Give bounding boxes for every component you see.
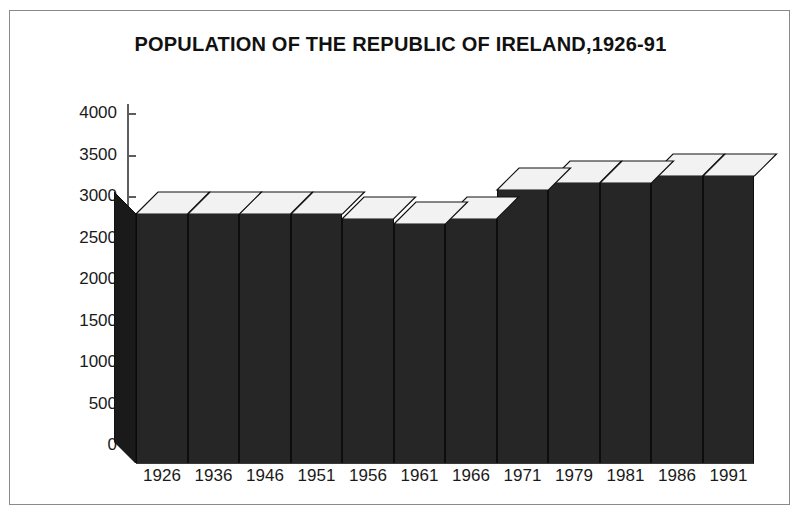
x-tick-label-1926: 1926 <box>134 466 190 486</box>
x-tick-label-1951: 1951 <box>289 466 345 486</box>
bar-1951[interactable] <box>291 192 343 463</box>
bar-1946[interactable] <box>239 192 291 463</box>
x-tick-label-1966: 1966 <box>443 466 499 486</box>
bar-1956[interactable] <box>342 197 394 463</box>
bar-front-face <box>600 183 652 463</box>
bar-top-face <box>136 192 188 214</box>
x-tick-label-1946: 1946 <box>237 466 293 486</box>
bar-front-face <box>445 219 497 463</box>
bar-1961[interactable] <box>394 202 446 463</box>
bar-front-face <box>651 176 703 463</box>
x-tick-label-1961: 1961 <box>392 466 448 486</box>
bar-1926[interactable] <box>136 192 188 463</box>
x-tick-label-1979: 1979 <box>546 466 602 486</box>
bar-left-side-face <box>114 192 138 463</box>
bar-front-face <box>291 214 343 463</box>
bar-1991[interactable] <box>703 154 755 463</box>
bar-front-face <box>548 183 600 463</box>
bar-front-face <box>497 190 549 463</box>
bar-front-face <box>239 214 291 463</box>
bar-front-face <box>342 219 394 463</box>
x-tick-label-1936: 1936 <box>186 466 242 486</box>
x-tick-label-1956: 1956 <box>340 466 396 486</box>
bar-1966[interactable] <box>445 197 497 463</box>
bar-1981[interactable] <box>600 161 652 463</box>
bar-1936[interactable] <box>188 192 240 463</box>
figure-frame: POPULATION OF THE REPUBLIC OF IRELAND,19… <box>9 10 790 505</box>
bar-front-face <box>703 176 755 463</box>
bar-1979[interactable] <box>548 161 600 463</box>
x-axis-baseline <box>136 463 754 464</box>
bar-series <box>10 11 791 506</box>
bar-top-face <box>497 168 549 190</box>
x-tick-label-1971: 1971 <box>495 466 551 486</box>
x-tick-label-1991: 1991 <box>701 466 757 486</box>
bar-front-face <box>188 214 240 463</box>
bar-front-face <box>136 214 188 463</box>
x-tick-label-1986: 1986 <box>649 466 705 486</box>
chart-figure: POPULATION OF THE REPUBLIC OF IRELAND,19… <box>0 0 801 509</box>
x-tick-label-1981: 1981 <box>598 466 654 486</box>
plot-area: 40003500300025002000150010005000 1926193… <box>10 11 791 506</box>
bar-1986[interactable] <box>651 154 703 463</box>
bar-front-face <box>394 224 446 463</box>
